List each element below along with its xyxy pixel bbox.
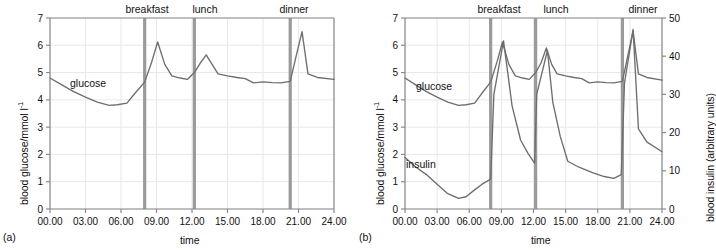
svg-text:03.00: 03.00 (73, 216, 98, 227)
panel-b-x-axis-label: time (531, 234, 550, 246)
panel-b-plot: 012345670102030405000.0003.0006.0009.001… (356, 0, 713, 250)
svg-text:03.00: 03.00 (425, 216, 450, 227)
svg-text:5: 5 (37, 67, 43, 78)
panel-b-y-axis-label-left: blood glucose/mmol l-1 (372, 102, 386, 205)
svg-text:40: 40 (669, 51, 681, 62)
panel-b-meal-label-dinner: dinner (628, 3, 657, 15)
svg-text:7: 7 (37, 13, 43, 24)
panel-b-series-label-insulin: insulin (406, 158, 436, 170)
panel-b-series-label-glucose: glucose (416, 80, 452, 92)
svg-text:18.00: 18.00 (585, 216, 610, 227)
svg-text:24.00: 24.00 (321, 216, 346, 227)
svg-text:1: 1 (37, 176, 43, 187)
panel-b-meal-label-breakfast: breakfast (477, 3, 520, 15)
svg-text:12.00: 12.00 (179, 216, 204, 227)
panel-a-tag: (a) (3, 231, 16, 243)
panel-a-plot: 0123456700.0003.0006.0009.0012.0015.0018… (0, 0, 356, 250)
svg-text:15.00: 15.00 (215, 216, 240, 227)
panel-b-meal-label-lunch: lunch (543, 3, 568, 15)
svg-text:0: 0 (669, 204, 675, 215)
panel-b-tag: (b) (359, 231, 372, 243)
panel-a: 0123456700.0003.0006.0009.0012.0015.0018… (0, 0, 356, 250)
svg-text:18.00: 18.00 (250, 216, 275, 227)
svg-text:09.00: 09.00 (489, 216, 514, 227)
panel-a-y-axis-label: blood glucose/mmol l-1 (16, 102, 30, 205)
svg-text:12.00: 12.00 (521, 216, 546, 227)
svg-text:7: 7 (392, 13, 398, 24)
svg-text:4: 4 (37, 94, 43, 105)
svg-text:10: 10 (669, 165, 681, 176)
panel-a-meal-label-breakfast: breakfast (125, 3, 168, 15)
svg-text:06.00: 06.00 (457, 216, 482, 227)
svg-text:2: 2 (392, 149, 398, 160)
svg-text:5: 5 (392, 67, 398, 78)
svg-text:09.00: 09.00 (144, 216, 169, 227)
svg-text:06.00: 06.00 (108, 216, 133, 227)
svg-text:15.00: 15.00 (553, 216, 578, 227)
svg-text:2: 2 (37, 149, 43, 160)
svg-text:6: 6 (392, 40, 398, 51)
svg-text:4: 4 (392, 94, 398, 105)
svg-text:20: 20 (669, 127, 681, 138)
svg-text:00.00: 00.00 (37, 216, 62, 227)
svg-text:0: 0 (37, 204, 43, 215)
svg-text:21.00: 21.00 (286, 216, 311, 227)
svg-text:30: 30 (669, 89, 681, 100)
svg-text:6: 6 (37, 40, 43, 51)
svg-text:3: 3 (37, 122, 43, 133)
panel-b: 012345670102030405000.0003.0006.0009.001… (356, 0, 713, 250)
svg-text:24.00: 24.00 (649, 216, 674, 227)
svg-text:00.00: 00.00 (392, 216, 417, 227)
panel-b-y-axis-label-right: blood insulin (arbitrary units) (704, 93, 716, 222)
svg-text:21.00: 21.00 (617, 216, 642, 227)
panel-a-meal-label-lunch: lunch (192, 3, 217, 15)
panel-a-meal-label-dinner: dinner (279, 3, 308, 15)
svg-text:50: 50 (669, 13, 681, 24)
svg-text:0: 0 (392, 204, 398, 215)
panel-a-x-axis-label: time (180, 234, 199, 246)
svg-text:1: 1 (392, 176, 398, 187)
svg-text:3: 3 (392, 122, 398, 133)
panel-a-series-label-glucose: glucose (70, 77, 106, 89)
